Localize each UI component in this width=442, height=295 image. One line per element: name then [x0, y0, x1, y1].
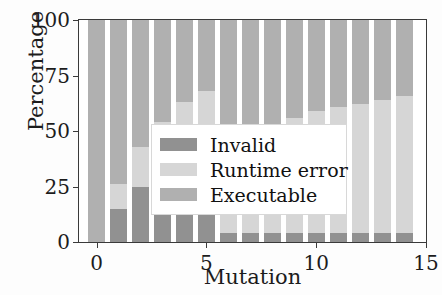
bar-segment-executable — [374, 20, 391, 100]
y-tick-label: 25 — [45, 175, 70, 199]
legend-swatch-invalid — [160, 138, 197, 151]
bar-segment-invalid — [220, 233, 237, 242]
bar-segment-executable — [110, 20, 127, 184]
bar-segment-executable — [264, 20, 281, 127]
y-tick-label: 50 — [45, 119, 70, 143]
bar-segment-executable — [308, 20, 325, 111]
bar-segment-runtime-error — [110, 184, 127, 208]
bar-segment-invalid — [374, 233, 391, 242]
bar-segment-executable — [198, 20, 215, 91]
y-tick-mark — [73, 20, 79, 21]
legend-swatch-runtime-error — [160, 163, 197, 176]
x-axis-title: Mutation — [78, 265, 427, 289]
x-tick-mark — [316, 242, 317, 248]
bar-mutation-2 — [132, 20, 149, 242]
bar-segment-invalid — [132, 187, 149, 243]
bar-segment-invalid — [330, 233, 347, 242]
bar-segment-invalid — [286, 233, 303, 242]
bar-segment-executable — [176, 20, 193, 102]
y-tick-mark — [73, 76, 79, 77]
bar-segment-runtime-error — [132, 147, 149, 187]
y-tick-label: 0 — [57, 230, 70, 254]
x-tick-mark — [206, 242, 207, 248]
x-tick-mark — [97, 242, 98, 248]
legend-item-executable: Executable — [160, 182, 338, 207]
bar-segment-executable — [330, 20, 347, 107]
bar-segment-invalid — [352, 233, 369, 242]
bar-segment-executable — [242, 20, 259, 140]
y-tick-mark — [73, 242, 79, 243]
bar-mutation-1 — [110, 20, 127, 242]
legend-item-runtime-error: Runtime error — [160, 157, 338, 182]
bar-segment-runtime-error — [396, 96, 413, 234]
bar-segment-invalid — [264, 233, 281, 242]
legend-swatch-executable — [160, 188, 197, 201]
bar-segment-invalid — [110, 209, 127, 242]
bar-segment-executable — [88, 20, 105, 242]
chart-legend: Invalid Runtime error Executable — [151, 124, 347, 215]
bar-segment-invalid — [396, 233, 413, 242]
bar-mutation-12 — [352, 20, 369, 242]
bar-segment-runtime-error — [352, 104, 369, 233]
y-tick-mark — [73, 187, 79, 188]
x-tick-mark — [426, 242, 427, 248]
legend-label-executable: Executable — [210, 184, 317, 206]
bar-mutation-0 — [88, 20, 105, 242]
legend-label-runtime-error: Runtime error — [210, 159, 348, 181]
bar-segment-executable — [154, 20, 171, 122]
bar-segment-executable — [132, 20, 149, 147]
bar-segment-invalid — [308, 233, 325, 242]
bar-segment-executable — [352, 20, 369, 104]
bar-segment-runtime-error — [374, 100, 391, 233]
bar-mutation-13 — [374, 20, 391, 242]
legend-label-invalid: Invalid — [210, 134, 276, 156]
bar-mutation-14 — [396, 20, 413, 242]
y-tick-mark — [73, 131, 79, 132]
bar-segment-executable — [396, 20, 413, 95]
y-tick-label: 100 — [32, 8, 70, 32]
y-tick-label: 75 — [45, 64, 70, 88]
bar-segment-invalid — [242, 233, 259, 242]
bar-segment-executable — [286, 20, 303, 118]
legend-item-invalid: Invalid — [160, 132, 338, 157]
stacked-bar-chart-figure: Percentage 0255075100051015 Mutation Inv… — [0, 0, 442, 295]
